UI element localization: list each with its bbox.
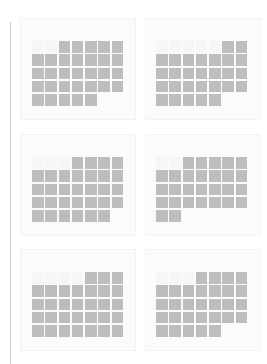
day-cell[interactable] [156, 81, 168, 93]
day-cell[interactable] [156, 170, 168, 182]
day-cell[interactable] [72, 312, 84, 324]
day-cell[interactable] [156, 285, 168, 297]
day-cell[interactable] [183, 68, 195, 80]
day-cell[interactable] [209, 299, 221, 311]
day-cell[interactable] [222, 157, 234, 169]
day-cell[interactable] [156, 54, 168, 66]
day-cell[interactable] [183, 54, 195, 66]
day-cell[interactable] [112, 157, 124, 169]
day-cell[interactable] [156, 299, 168, 311]
day-cell[interactable] [222, 54, 234, 66]
day-cell[interactable] [222, 197, 234, 209]
day-cell[interactable] [183, 197, 195, 209]
day-cell[interactable] [196, 272, 208, 284]
day-cell[interactable] [59, 170, 71, 182]
day-cell[interactable] [183, 312, 195, 324]
day-cell[interactable] [183, 325, 195, 337]
day-cell[interactable] [222, 184, 234, 196]
day-cell[interactable] [85, 184, 97, 196]
day-cell[interactable] [209, 157, 221, 169]
day-cell[interactable] [222, 299, 234, 311]
day-cell[interactable] [85, 157, 97, 169]
day-cell[interactable] [169, 94, 181, 106]
day-cell[interactable] [45, 68, 57, 80]
day-cell[interactable] [45, 197, 57, 209]
day-cell[interactable] [98, 68, 110, 80]
day-cell[interactable] [236, 68, 248, 80]
day-cell[interactable] [236, 312, 248, 324]
day-cell[interactable] [45, 94, 57, 106]
day-cell[interactable] [169, 210, 181, 222]
day-cell[interactable] [156, 312, 168, 324]
day-cell[interactable] [85, 325, 97, 337]
day-cell[interactable] [98, 272, 110, 284]
day-cell[interactable] [222, 312, 234, 324]
day-cell[interactable] [45, 210, 57, 222]
day-cell[interactable] [156, 184, 168, 196]
day-cell[interactable] [196, 157, 208, 169]
day-cell[interactable] [236, 184, 248, 196]
day-cell[interactable] [32, 299, 44, 311]
day-cell[interactable] [85, 54, 97, 66]
day-cell[interactable] [169, 325, 181, 337]
day-cell[interactable] [98, 299, 110, 311]
day-cell[interactable] [59, 81, 71, 93]
day-cell[interactable] [169, 170, 181, 182]
day-cell[interactable] [32, 68, 44, 80]
day-cell[interactable] [59, 54, 71, 66]
day-cell[interactable] [85, 41, 97, 53]
day-cell[interactable] [85, 68, 97, 80]
day-cell[interactable] [236, 170, 248, 182]
day-cell[interactable] [183, 94, 195, 106]
day-cell[interactable] [196, 197, 208, 209]
day-cell[interactable] [196, 170, 208, 182]
day-cell[interactable] [112, 170, 124, 182]
day-cell[interactable] [169, 285, 181, 297]
day-cell[interactable] [85, 312, 97, 324]
day-cell[interactable] [98, 81, 110, 93]
day-cell[interactable] [98, 41, 110, 53]
day-cell[interactable] [183, 170, 195, 182]
day-cell[interactable] [32, 210, 44, 222]
day-cell[interactable] [85, 81, 97, 93]
day-cell[interactable] [98, 210, 110, 222]
day-cell[interactable] [59, 285, 71, 297]
day-cell[interactable] [45, 81, 57, 93]
day-cell[interactable] [169, 68, 181, 80]
day-cell[interactable] [169, 299, 181, 311]
day-cell[interactable] [196, 54, 208, 66]
day-cell[interactable] [236, 299, 248, 311]
day-cell[interactable] [236, 272, 248, 284]
day-cell[interactable] [32, 312, 44, 324]
day-cell[interactable] [112, 184, 124, 196]
day-cell[interactable] [209, 325, 221, 337]
day-cell[interactable] [98, 312, 110, 324]
day-cell[interactable] [85, 285, 97, 297]
day-cell[interactable] [32, 94, 44, 106]
day-cell[interactable] [112, 197, 124, 209]
day-cell[interactable] [72, 41, 84, 53]
day-cell[interactable] [209, 184, 221, 196]
day-cell[interactable] [45, 325, 57, 337]
day-cell[interactable] [183, 285, 195, 297]
day-cell[interactable] [112, 41, 124, 53]
day-cell[interactable] [196, 94, 208, 106]
day-cell[interactable] [98, 157, 110, 169]
day-cell[interactable] [98, 325, 110, 337]
day-cell[interactable] [98, 170, 110, 182]
day-cell[interactable] [72, 81, 84, 93]
day-cell[interactable] [59, 68, 71, 80]
day-cell[interactable] [112, 285, 124, 297]
day-cell[interactable] [196, 81, 208, 93]
day-cell[interactable] [85, 94, 97, 106]
day-cell[interactable] [72, 170, 84, 182]
day-cell[interactable] [32, 81, 44, 93]
day-cell[interactable] [156, 197, 168, 209]
day-cell[interactable] [236, 197, 248, 209]
day-cell[interactable] [85, 272, 97, 284]
day-cell[interactable] [98, 285, 110, 297]
day-cell[interactable] [236, 41, 248, 53]
day-cell[interactable] [72, 184, 84, 196]
day-cell[interactable] [209, 170, 221, 182]
day-cell[interactable] [45, 285, 57, 297]
